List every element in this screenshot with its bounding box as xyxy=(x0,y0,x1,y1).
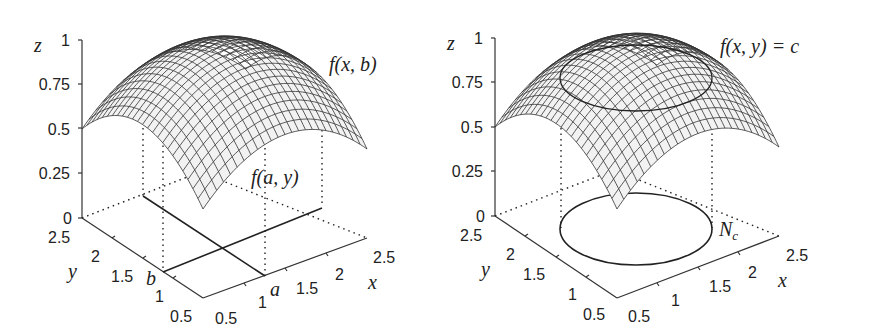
x-tick xyxy=(738,252,740,255)
right-plot: 1 0.75 0.5 0.25 0 z 2.5 2 1.5 1 0.5 y 0.… xyxy=(446,30,808,325)
y-tick-label: 1 xyxy=(568,286,577,303)
x-tick-label: 2.5 xyxy=(786,247,808,264)
z-tick-label: 0 xyxy=(476,208,485,225)
y-tick xyxy=(173,276,176,278)
level-curve-label: f(x, y) = c xyxy=(720,35,799,58)
z-tick-label: 0.5 xyxy=(48,121,70,138)
z-tick-label: 0.5 xyxy=(461,119,483,136)
y-tick xyxy=(556,255,559,257)
y-tick-label: 2 xyxy=(91,248,100,265)
x-tick-label: 1 xyxy=(258,294,267,311)
x-tick xyxy=(326,253,328,256)
y-axis-label: y xyxy=(479,258,490,281)
x-tick-label: 0.5 xyxy=(215,310,237,327)
y-tick-label: 1.5 xyxy=(523,266,545,283)
y-tick-label: 0.5 xyxy=(170,308,192,325)
x-axis-label: x xyxy=(367,271,377,293)
b-marker-label: b xyxy=(146,267,156,289)
z-tick-label: 0.25 xyxy=(39,165,70,182)
left-plot: 1 0.75 0.5 0.25 0 z 2.5 2 1.5 1 0.5 y b … xyxy=(33,32,395,327)
y-tick xyxy=(586,275,589,277)
x-tick xyxy=(698,267,700,270)
y-tick-label: 2.5 xyxy=(48,229,70,246)
x-tick-label: 0.5 xyxy=(628,308,650,325)
z-tick-label: 1 xyxy=(474,30,483,47)
y-tick-label: 1 xyxy=(155,288,164,305)
x-tick-label: 2.5 xyxy=(373,249,395,266)
y-tick xyxy=(112,236,115,238)
z-tick-label: 0.75 xyxy=(39,76,70,93)
y-tick-label: 2 xyxy=(506,246,515,263)
a-marker-label: a xyxy=(270,278,280,300)
level-set-ellipse xyxy=(560,193,712,265)
x-tick-label: 1.5 xyxy=(296,280,318,297)
x-tick-label: 2 xyxy=(335,266,344,283)
x-tick xyxy=(285,268,287,271)
y-axis-label: y xyxy=(66,260,77,283)
y-tick xyxy=(143,256,146,258)
z-axis-label: z xyxy=(33,34,42,56)
y-axis xyxy=(82,218,203,298)
curve-label-f-a-y: f(a, y) xyxy=(251,166,299,189)
y-tick-label: 1.5 xyxy=(111,268,133,285)
x-tick-label: 2 xyxy=(748,264,757,281)
y-tick-label: 0.5 xyxy=(583,306,605,323)
back-left-floor-edge xyxy=(495,170,614,216)
x-axis-label: x xyxy=(777,269,787,291)
z-axis-label: z xyxy=(446,32,455,54)
z-tick-label: 0.75 xyxy=(452,74,483,91)
x-tick-label: 1 xyxy=(671,292,680,309)
x-tick xyxy=(244,283,246,286)
x-tick-label: 1.5 xyxy=(709,278,731,295)
surface-mesh xyxy=(495,33,779,209)
y-tick xyxy=(525,234,528,236)
z-tick-label: 0 xyxy=(63,210,72,227)
back-left-floor-edge xyxy=(82,172,200,218)
z-tick-label: 0.25 xyxy=(452,163,483,180)
level-set-label: Nc xyxy=(718,218,738,243)
x-tick xyxy=(657,283,659,286)
y-tick-label: 2.5 xyxy=(460,227,482,244)
line-y-equals-b xyxy=(163,208,322,272)
surface-mesh xyxy=(82,36,367,209)
curve-label-f-x-b: f(x, b) xyxy=(329,53,377,76)
figure: 1 0.75 0.5 0.25 0 z 2.5 2 1.5 1 0.5 y b … xyxy=(0,0,872,336)
z-tick-label: 1 xyxy=(61,32,70,49)
